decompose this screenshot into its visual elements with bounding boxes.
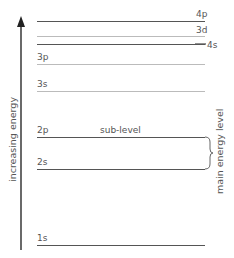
level-line-3s	[37, 91, 205, 92]
sub-level-annotation: sub-level	[100, 125, 141, 135]
main-energy-level-brace-icon	[205, 137, 213, 169]
level-line-4p	[37, 21, 205, 22]
level-label-4s: 4s	[207, 40, 217, 50]
level-label-3d: 3d	[196, 25, 207, 35]
energy-level-diagram: increasing energy 4p 3d 4s 3p 3s 2p 2s 1…	[0, 0, 234, 258]
level-line-2s	[37, 169, 205, 170]
level-label-3p: 3p	[37, 52, 48, 62]
level-label-4p: 4p	[196, 9, 207, 19]
level-line-3d	[37, 36, 205, 37]
main-energy-level-annotation: main energy level	[214, 109, 225, 194]
level-label-1s: 1s	[37, 233, 47, 243]
level-line-4s	[37, 44, 205, 45]
level-line-3p	[37, 64, 205, 65]
level-label-2p: 2p	[37, 125, 48, 135]
level-label-2s: 2s	[37, 157, 47, 167]
level-line-1s	[37, 245, 205, 246]
level-label-3s: 3s	[37, 79, 47, 89]
axis-label: increasing energy	[7, 97, 18, 182]
level-line-2p	[37, 137, 205, 138]
